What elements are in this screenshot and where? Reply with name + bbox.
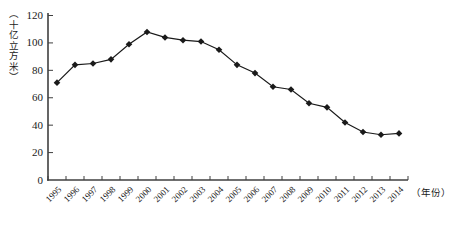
y-tick-label: 20 bbox=[32, 146, 44, 158]
x-tick-label: 2001 bbox=[152, 184, 172, 204]
y-tick-label: 0 bbox=[38, 174, 44, 186]
x-axis-title: （年份） bbox=[411, 185, 451, 199]
x-tick-label: 2005 bbox=[224, 184, 244, 204]
x-tick-label: 1995 bbox=[44, 184, 64, 204]
x-tick-label: 1997 bbox=[80, 184, 100, 204]
y-tick-label: 40 bbox=[32, 119, 44, 131]
data-point-marker bbox=[180, 37, 187, 44]
x-tick-label: 2003 bbox=[188, 184, 208, 204]
data-point-marker bbox=[360, 129, 367, 136]
x-tick-label: 2002 bbox=[170, 184, 190, 204]
x-tick-label: 2011 bbox=[332, 184, 352, 204]
x-tick-label: 1999 bbox=[116, 184, 136, 204]
data-point-marker bbox=[90, 60, 97, 67]
line-chart-figure: 0204060801001201995199619971998199920002… bbox=[0, 0, 455, 226]
x-tick-label: 1998 bbox=[98, 184, 118, 204]
x-tick-label: 2004 bbox=[206, 184, 226, 204]
y-tick-label: 60 bbox=[32, 91, 44, 103]
x-tick-label: 2013 bbox=[368, 184, 388, 204]
data-point-marker bbox=[198, 38, 205, 45]
y-tick-label: 80 bbox=[32, 64, 44, 76]
x-tick-label: 2009 bbox=[296, 184, 316, 204]
x-tick-label: 2010 bbox=[314, 184, 334, 204]
chart-svg: 0204060801001201995199619971998199920002… bbox=[0, 0, 455, 226]
data-line bbox=[57, 32, 399, 135]
y-tick-label: 120 bbox=[27, 9, 44, 21]
data-point-marker bbox=[396, 130, 403, 137]
x-tick-label: 2012 bbox=[350, 184, 370, 204]
x-tick-label: 1996 bbox=[62, 184, 82, 204]
x-tick-label: 2006 bbox=[242, 184, 262, 204]
x-tick-label: 2000 bbox=[134, 184, 154, 204]
data-point-marker bbox=[162, 34, 169, 41]
x-tick-label: 2007 bbox=[260, 184, 280, 204]
x-tick-label: 2014 bbox=[386, 184, 406, 204]
y-tick-label: 100 bbox=[27, 36, 44, 48]
x-tick-label: 2008 bbox=[278, 184, 298, 204]
data-point-marker bbox=[378, 131, 385, 138]
y-axis-title: （十亿立方米） bbox=[6, 9, 20, 83]
